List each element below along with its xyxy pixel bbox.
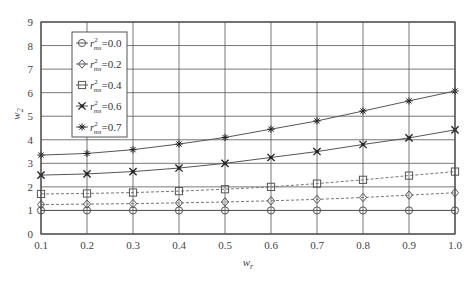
series-0-2 [37, 189, 458, 209]
y-tick-label: 2 [28, 181, 34, 193]
line-chart: 0123456789 0.10.20.30.40.50.60.70.80.91.… [0, 0, 475, 283]
star-marker [267, 126, 274, 133]
x-axis-label: wr [243, 256, 254, 271]
y-tick-label: 1 [28, 204, 34, 216]
star-marker [129, 146, 136, 153]
y-axis-label: w2 [10, 108, 25, 119]
y-tick-label: 7 [28, 63, 34, 75]
x-tick-label: 0.5 [218, 239, 232, 251]
series-line [41, 193, 455, 205]
y-tick-label: 4 [28, 134, 34, 146]
x-tick-label: 0.6 [264, 239, 278, 251]
star-marker [175, 140, 182, 147]
series-0-0 [37, 207, 458, 214]
star-marker [313, 117, 320, 124]
x-tick-label: 0.4 [172, 239, 186, 251]
y-axis-ticks: 0123456789 [28, 16, 34, 240]
y-tick-label: 0 [28, 228, 34, 240]
y-tick-label: 5 [28, 110, 34, 122]
x-tick-label: 0.3 [126, 239, 140, 251]
star-marker [83, 150, 90, 157]
x-axis-label-text: wr [243, 256, 254, 271]
y-tick-label: 6 [28, 87, 34, 99]
star-marker [405, 97, 412, 104]
y-axis-label-text: w2 [10, 108, 25, 119]
star-marker [78, 123, 85, 130]
y-tick-label: 3 [28, 157, 34, 169]
x-tick-label: 0.7 [310, 239, 324, 251]
x-tick-label: 0.9 [402, 239, 416, 251]
x-tick-label: 0.1 [34, 239, 48, 251]
x-tick-label: 0.8 [356, 239, 370, 251]
series-line [41, 172, 455, 194]
legend: r2ms=0.0r2ms=0.2r2ms=0.4r2ms=0.6r2ms=0.7 [72, 32, 127, 137]
x-axis-ticks: 0.10.20.30.40.50.60.70.80.91.0 [34, 239, 462, 251]
x-tick-label: 1.0 [448, 239, 462, 251]
star-marker [221, 134, 228, 141]
y-tick-label: 9 [28, 16, 34, 28]
y-tick-label: 8 [28, 40, 34, 52]
star-marker [359, 107, 366, 114]
x-tick-label: 0.2 [80, 239, 94, 251]
series-0-4 [37, 168, 458, 198]
